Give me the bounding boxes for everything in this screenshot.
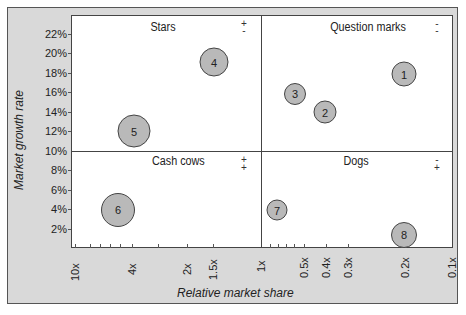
x-tick-mark: [326, 244, 327, 248]
bubble-7: 7: [267, 200, 288, 221]
bubble-1: 1: [392, 62, 417, 87]
bubble-5: 5: [118, 115, 151, 148]
x-tick-mark: [132, 244, 133, 248]
x-tick-mark: [90, 244, 91, 248]
y-axis-label: Market growth rate: [12, 90, 26, 190]
y-tick: 2%: [51, 223, 67, 235]
x-tick-mark: [278, 244, 279, 248]
x-axis-label: Relative market share: [177, 286, 294, 300]
bubble-8: 8: [391, 222, 417, 248]
question-marks-sign-bottom: -: [432, 27, 442, 35]
quadrant-label-cash-cows: Cash cows: [152, 154, 205, 168]
x-tick-mark: [158, 244, 159, 248]
y-tick: 12%: [45, 125, 67, 137]
quadrant-label-dogs: Dogs: [343, 154, 368, 168]
y-tick: 20%: [45, 47, 67, 59]
bubble-6: 6: [101, 193, 135, 227]
bubble-4: 4: [200, 48, 229, 77]
bubble-2: 2: [314, 101, 337, 124]
x-tick-mark: [348, 244, 349, 248]
x-tick-mark: [100, 244, 101, 248]
x-tick: 10x: [69, 263, 81, 281]
quadrant-divider-horizontal: [72, 151, 452, 152]
y-tick: 10%: [45, 145, 67, 157]
bubble-3: 3: [284, 83, 306, 105]
x-tick-mark: [294, 244, 295, 248]
x-tick-mark: [120, 244, 121, 248]
y-tick: 4%: [51, 203, 67, 215]
quadrant-label-question-marks: Question marks: [330, 20, 406, 34]
dogs-sign-bottom: +: [432, 164, 442, 172]
y-tick: 18%: [45, 67, 67, 79]
y-tick: 6%: [51, 184, 67, 196]
x-tick-mark: [270, 244, 271, 248]
x-tick-mark: [110, 244, 111, 248]
x-tick-mark: [286, 244, 287, 248]
quadrant-divider-vertical: [261, 16, 262, 247]
y-tick: 22%: [45, 28, 67, 40]
x-tick: 0.4x: [320, 257, 332, 278]
x-tick-mark: [304, 244, 305, 248]
x-tick-mark: [75, 244, 76, 248]
x-tick: 2x: [181, 263, 193, 275]
x-tick: 0.2x: [399, 257, 411, 278]
x-tick: 1x: [255, 260, 267, 272]
x-tick: 0.5x: [298, 257, 310, 278]
y-tick: 14%: [45, 106, 67, 118]
x-tick: 0.3x: [342, 257, 354, 278]
quadrant-label-stars: Stars: [150, 20, 175, 34]
x-tick: 4x: [126, 263, 138, 275]
stars-sign-bottom: -: [239, 27, 249, 35]
cash-cows-sign-bottom: +: [239, 164, 249, 172]
x-tick: 1.5x: [207, 259, 219, 280]
x-tick-mark: [187, 244, 188, 248]
y-tick: 8%: [51, 164, 67, 176]
x-tick: 0.1x: [446, 257, 458, 278]
y-tick: 16%: [45, 86, 67, 98]
x-tick-mark: [213, 244, 214, 248]
